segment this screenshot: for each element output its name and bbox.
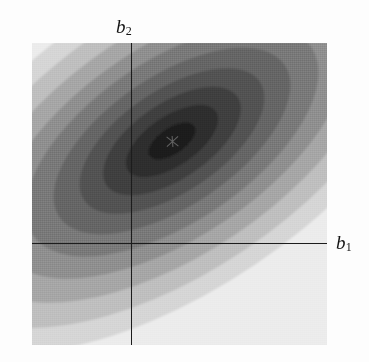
horizontal-axis-line <box>32 243 327 244</box>
plot-panel <box>32 43 327 345</box>
x-axis-label-base: b <box>336 232 346 253</box>
vertical-axis-line <box>131 43 132 345</box>
contour-plot-figure: b2 b1 <box>0 0 369 362</box>
contour-bands <box>32 43 327 345</box>
x-axis-label: b1 <box>336 233 352 253</box>
x-axis-label-subscript: 1 <box>346 240 352 254</box>
y-axis-label-subscript: 2 <box>126 24 132 38</box>
y-axis-label: b2 <box>116 17 132 37</box>
y-axis-label-base: b <box>116 16 126 37</box>
